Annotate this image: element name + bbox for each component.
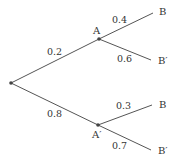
node-label: A′ [91, 129, 102, 140]
leaf-label: B′ [158, 145, 168, 156]
node-label: A [92, 25, 101, 36]
leaf-label: B [159, 6, 166, 17]
branch-probability-label: 0.2 [47, 46, 62, 57]
node-A_prime [96, 123, 100, 127]
branch-probability-label: 0.7 [112, 140, 127, 151]
tree-labels: 0.20.80.40.60.30.7AA′BB′BB′ [47, 6, 168, 156]
branch-probability-label: 0.3 [116, 100, 131, 111]
tree-edges [11, 13, 153, 150]
branch-probability-label: 0.6 [117, 53, 132, 64]
probability-tree-diagram: 0.20.80.40.60.30.7AA′BB′BB′ [0, 0, 172, 158]
node-A [97, 37, 101, 41]
branch-probability-label: 0.4 [112, 14, 127, 25]
branch-probability-label: 0.8 [47, 108, 62, 119]
leaf-label: B [159, 99, 166, 110]
root-node [9, 81, 13, 85]
leaf-label: B′ [158, 55, 168, 66]
